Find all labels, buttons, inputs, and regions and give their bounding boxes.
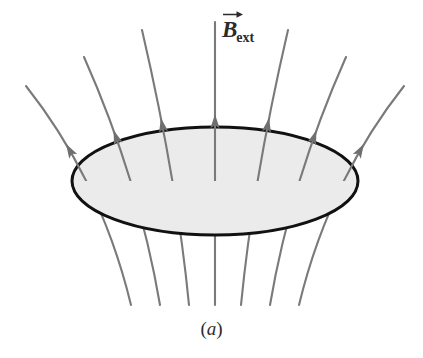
field-label-b-ext: B ext xyxy=(222,18,255,41)
field-line-diagram xyxy=(0,0,423,358)
field-symbol-subscript: ext xyxy=(236,30,254,45)
magnetic-flux-figure: B ext (a) xyxy=(0,0,423,358)
figure-caption: (a) xyxy=(0,318,423,340)
arrowhead-icon xyxy=(353,142,368,159)
vector-arrow-icon xyxy=(223,9,243,18)
arrowhead-icon xyxy=(62,142,77,159)
figure-caption-text: (a) xyxy=(200,318,222,339)
